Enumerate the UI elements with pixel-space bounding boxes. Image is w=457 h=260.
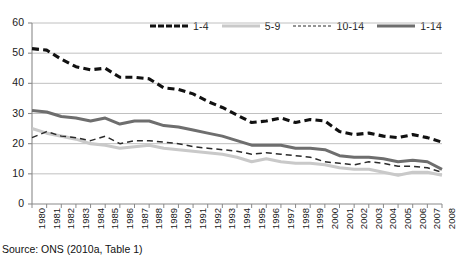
chart-canvas — [0, 0, 450, 215]
x-tick-label-2000: 2000 — [329, 208, 340, 229]
y-tick-label-30: 30 — [2, 107, 24, 119]
x-tick-label-1997: 1997 — [285, 208, 296, 229]
x-tick-label-1982: 1982 — [65, 208, 76, 229]
x-tick-label-2001: 2001 — [344, 208, 355, 229]
x-tick-label-1989: 1989 — [168, 208, 179, 229]
x-tick-label-1988: 1988 — [153, 208, 164, 229]
x-tick-label-1998: 1998 — [300, 208, 311, 229]
plot-area — [0, 0, 450, 215]
x-tick-label-1993: 1993 — [226, 208, 237, 229]
x-tick-label-2003: 2003 — [373, 208, 384, 229]
series-line-1-4 — [32, 49, 442, 143]
x-tick-label-1983: 1983 — [80, 208, 91, 229]
x-tick-label-1986: 1986 — [124, 208, 135, 229]
x-tick-label-1992: 1992 — [212, 208, 223, 229]
x-tick-label-2004: 2004 — [387, 208, 398, 229]
x-tick-label-2008: 2008 — [446, 208, 457, 229]
x-tick-label-1980: 1980 — [36, 208, 47, 229]
x-tick-label-1996: 1996 — [270, 208, 281, 229]
x-tick-label-1991: 1991 — [197, 208, 208, 229]
x-tick-label-1995: 1995 — [256, 208, 267, 229]
y-tick-label-60: 60 — [2, 16, 24, 28]
x-tick-label-1981: 1981 — [51, 208, 62, 229]
x-tick-label-2005: 2005 — [402, 208, 413, 229]
x-tick-label-1985: 1985 — [109, 208, 120, 229]
source-note: Source: ONS (2010a, Table 1) — [2, 243, 142, 255]
x-tick-label-1987: 1987 — [139, 208, 150, 229]
x-tick-label-2007: 2007 — [431, 208, 442, 229]
x-tick-label-1999: 1999 — [314, 208, 325, 229]
y-tick-label-20: 20 — [2, 137, 24, 149]
x-tick-label-1994: 1994 — [241, 208, 252, 229]
x-tick-label-2006: 2006 — [417, 208, 428, 229]
y-tick-label-10: 10 — [2, 167, 24, 179]
y-tick-label-50: 50 — [2, 46, 24, 58]
y-tick-label-40: 40 — [2, 76, 24, 88]
series-line-10-14 — [32, 132, 442, 173]
x-tick-label-1984: 1984 — [95, 208, 106, 229]
x-tick-label-2002: 2002 — [358, 208, 369, 229]
x-axis-labels: 1980198119821983198419851986198719881989… — [0, 206, 450, 248]
x-tick-label-1990: 1990 — [182, 208, 193, 229]
